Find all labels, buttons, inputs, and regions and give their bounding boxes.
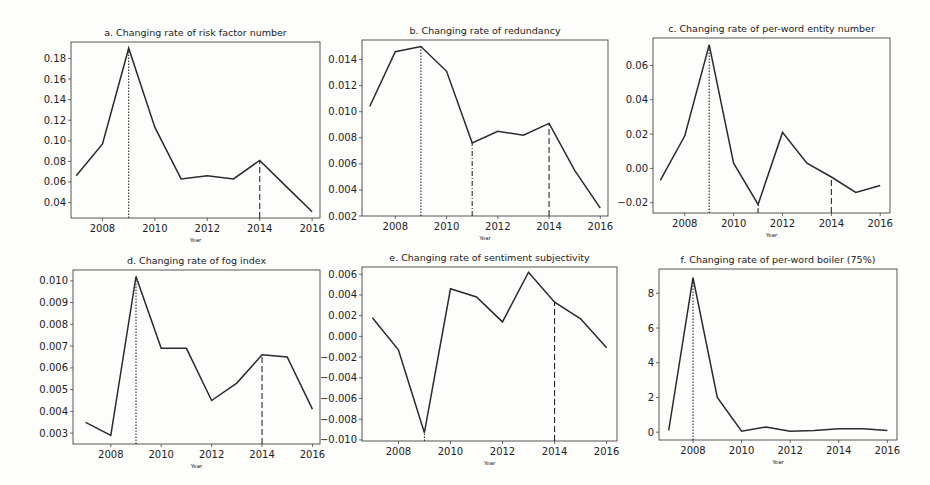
y-tick-label: 0.08 — [44, 156, 66, 167]
chart-panel-d: d. Changing rate of fog index 0.0030.004… — [21, 254, 326, 474]
chart-panel-c: c. Changing rate of per-word entity numb… — [601, 22, 896, 243]
y-tick-label: 0.04 — [626, 94, 648, 105]
data-line — [76, 48, 312, 212]
x-tick-label: 2012 — [485, 221, 510, 232]
data-line — [669, 278, 888, 432]
y-tick-label: 0.04 — [44, 197, 66, 208]
y-tick-label: 0.002 — [328, 310, 357, 321]
data-line — [372, 272, 606, 433]
x-axis-label: Year — [765, 232, 778, 238]
y-tick-label: −0.010 — [320, 434, 357, 445]
y-tick-label: 0.06 — [44, 176, 66, 187]
data-line — [86, 277, 313, 436]
y-tick-label: 0.005 — [39, 384, 68, 395]
y-tick-label: 0.18 — [44, 53, 66, 64]
x-axis-label: Year — [190, 463, 203, 469]
x-tick-label: 2016 — [868, 218, 893, 229]
y-tick-label: 0.007 — [39, 341, 68, 352]
x-tick-label: 2010 — [148, 449, 173, 460]
x-tick-label: 2010 — [438, 446, 463, 457]
chart-plot-b: 0.0020.0040.0060.0080.0100.0120.01420082… — [310, 24, 614, 246]
chart-panel-a: a. Changing rate of risk factor number 0… — [19, 26, 326, 248]
y-tick-label: 0.10 — [44, 135, 66, 146]
y-tick-label: 0.009 — [39, 297, 68, 308]
x-tick-label: 2008 — [672, 218, 697, 229]
y-tick-label: 0.003 — [39, 428, 68, 439]
y-tick-label: −0.02 — [617, 197, 648, 208]
y-tick-label: 0.008 — [39, 319, 68, 330]
x-tick-label: 2014 — [247, 223, 272, 234]
x-tick-label: 2010 — [142, 223, 167, 234]
chart-plot-e: −0.010−0.008−0.006−0.004−0.0020.0000.002… — [310, 251, 623, 471]
y-tick-label: 6 — [648, 323, 654, 334]
x-tick-label: 2012 — [195, 223, 220, 234]
axes-frame — [653, 38, 890, 213]
axes-frame — [71, 42, 320, 218]
y-tick-label: 0.06 — [626, 60, 648, 71]
y-tick-label: 0.010 — [39, 275, 68, 286]
x-tick-label: 2008 — [680, 445, 705, 456]
axes-frame — [362, 40, 608, 216]
y-tick-label: 0.008 — [328, 132, 357, 143]
x-tick-label: 2012 — [770, 218, 795, 229]
y-tick-label: 4 — [648, 357, 654, 368]
x-tick-label: 2010 — [434, 221, 459, 232]
x-axis-label: Year — [189, 237, 202, 243]
y-tick-label: −0.002 — [320, 352, 357, 363]
y-tick-label: 0.006 — [328, 269, 357, 280]
chart-panel-f: f. Changing rate of per-word boiler (75%… — [607, 253, 903, 470]
y-tick-label: 0.010 — [328, 106, 357, 117]
x-axis-label: Year — [483, 460, 496, 466]
x-tick-label: 2010 — [729, 445, 754, 456]
y-tick-label: 0.16 — [44, 74, 66, 85]
y-tick-label: 0.12 — [44, 115, 66, 126]
y-tick-label: 0.14 — [44, 94, 66, 105]
y-tick-label: 0.002 — [328, 211, 357, 222]
x-tick-label: 2014 — [826, 445, 851, 456]
x-tick-label: 2012 — [199, 449, 224, 460]
y-tick-label: 0.012 — [328, 80, 357, 91]
y-tick-label: 0.006 — [39, 362, 68, 373]
y-tick-label: 0.006 — [328, 158, 357, 169]
y-tick-label: 0.004 — [328, 289, 357, 300]
x-tick-label: 2008 — [386, 446, 411, 457]
x-tick-label: 2012 — [777, 445, 802, 456]
y-tick-label: −0.008 — [320, 414, 357, 425]
chart-panel-b: b. Changing rate of redundancy 0.0020.00… — [310, 24, 614, 246]
x-axis-label: Year — [771, 459, 784, 465]
data-line — [370, 47, 601, 209]
y-tick-label: 0.014 — [328, 54, 357, 65]
chart-panel-e: e. Changing rate of sentiment subjectivi… — [310, 251, 623, 471]
x-tick-label: 2014 — [536, 221, 561, 232]
x-tick-label: 2010 — [721, 218, 746, 229]
x-tick-label: 2012 — [490, 446, 515, 457]
x-tick-label: 2014 — [819, 218, 844, 229]
data-line — [660, 45, 880, 205]
chart-plot-f: 0246820082010201220142016Year — [607, 253, 903, 470]
y-tick-label: 0.004 — [328, 184, 357, 195]
axes-frame — [659, 269, 897, 440]
chart-plot-a: 0.040.060.080.100.120.140.160.1820082010… — [19, 26, 326, 248]
chart-plot-c: −0.020.000.020.040.062008201020122014201… — [601, 22, 896, 243]
x-tick-label: 2014 — [542, 446, 567, 457]
x-axis-label: Year — [478, 235, 491, 241]
y-tick-label: 8 — [648, 288, 654, 299]
x-tick-label: 2008 — [90, 223, 115, 234]
y-tick-label: 0.02 — [626, 129, 648, 140]
y-tick-label: 0.004 — [39, 406, 68, 417]
y-tick-label: 0 — [648, 427, 654, 438]
y-tick-label: −0.006 — [320, 393, 357, 404]
y-tick-label: 0.00 — [626, 163, 648, 174]
x-tick-label: 2016 — [875, 445, 900, 456]
y-tick-label: 2 — [648, 392, 654, 403]
x-tick-label: 2008 — [98, 449, 123, 460]
chart-plot-d: 0.0030.0040.0050.0060.0070.0080.0090.010… — [21, 254, 326, 474]
y-tick-label: 0.000 — [328, 331, 357, 342]
x-tick-label: 2008 — [383, 221, 408, 232]
x-tick-label: 2014 — [249, 449, 274, 460]
y-tick-label: −0.004 — [320, 372, 357, 383]
